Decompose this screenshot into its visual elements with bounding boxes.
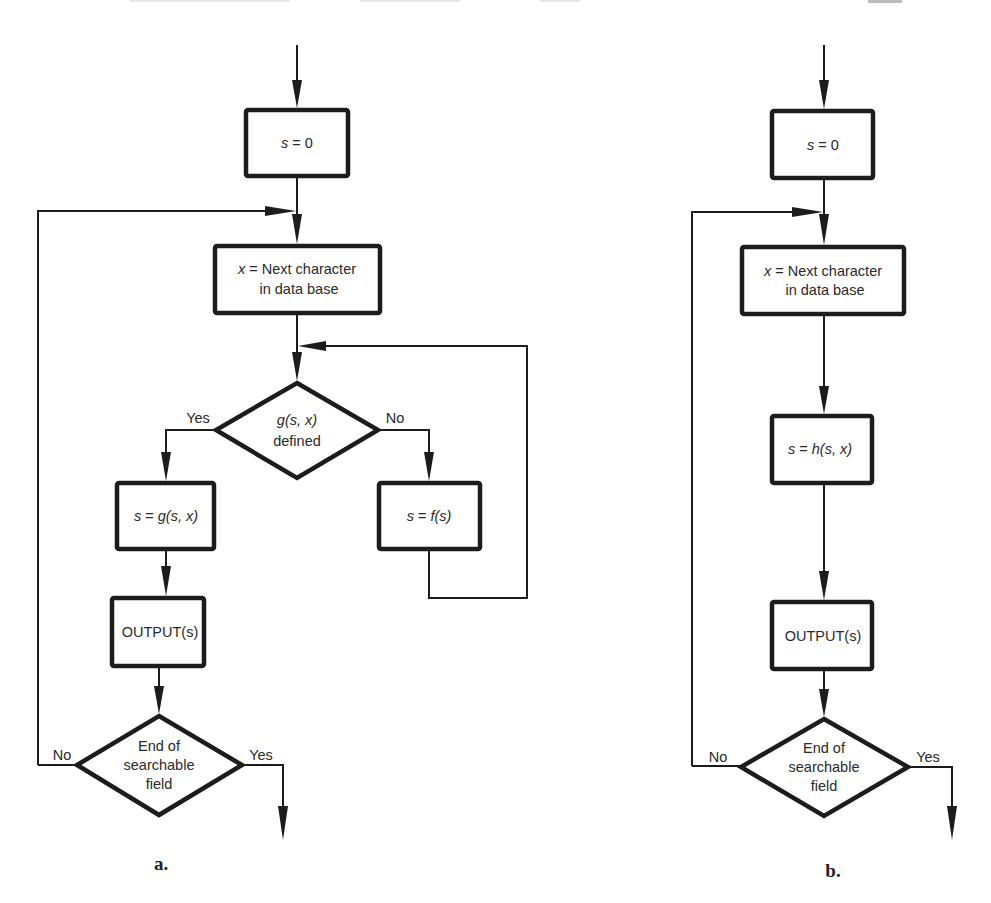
- no-label: No: [386, 410, 405, 426]
- caption-b: b.: [825, 860, 840, 881]
- no-label: No: [709, 749, 728, 765]
- goto-transition-box: s = g(s, x): [117, 483, 214, 549]
- svg-text:s = f(s): s = f(s): [407, 508, 452, 524]
- svg-text:s = 0: s = 0: [807, 137, 839, 153]
- svg-text:End of: End of: [138, 738, 181, 754]
- svg-text:s = g(s, x): s = g(s, x): [134, 508, 198, 524]
- svg-text:field: field: [146, 776, 173, 792]
- goto-defined-decision: g(s, x) defined Yes No: [186, 383, 404, 478]
- end-of-field-decision: End of searchable field No Yes: [709, 719, 940, 816]
- svg-text:x = Next character: x = Next character: [237, 261, 356, 277]
- end-of-field-decision: End of searchable field No Yes: [53, 716, 273, 815]
- svg-text:g(s, x): g(s, x): [277, 412, 317, 428]
- page-header-fragment: [130, 0, 902, 3]
- svg-text:OUTPUT(s): OUTPUT(s): [785, 628, 862, 644]
- yes-label: Yes: [916, 749, 940, 765]
- no-label: No: [53, 747, 72, 763]
- yes-label: Yes: [186, 410, 210, 426]
- svg-text:s = 0: s = 0: [281, 135, 313, 151]
- next-character-box: x = Next character in data base: [742, 247, 904, 314]
- caption-a: a.: [154, 853, 168, 874]
- svg-text:x = Next character: x = Next character: [763, 263, 882, 279]
- start-box: s = 0: [246, 110, 348, 176]
- next-character-box: x = Next character in data base: [215, 246, 380, 313]
- svg-text:in data base: in data base: [259, 281, 338, 297]
- entry-arrow: [292, 45, 302, 108]
- output-box: OUTPUT(s): [772, 602, 872, 669]
- output-box: OUTPUT(s): [112, 598, 204, 666]
- flowcharts-canvas: s = 0 x = Next character in data base g(…: [0, 0, 991, 903]
- entry-arrow: [819, 45, 829, 109]
- svg-text:field: field: [811, 778, 838, 794]
- svg-text:defined: defined: [273, 433, 321, 449]
- svg-text:End of: End of: [803, 740, 846, 756]
- yes-label: Yes: [249, 747, 273, 763]
- failure-feedback-arrow: [298, 341, 527, 598]
- svg-text:in data base: in data base: [785, 282, 864, 298]
- svg-text:searchable: searchable: [124, 757, 195, 773]
- svg-text:OUTPUT(s): OUTPUT(s): [122, 624, 199, 640]
- start-box: s = 0: [772, 111, 873, 178]
- flowchart-a: s = 0 x = Next character in data base g(…: [38, 45, 527, 874]
- failure-function-box: s = f(s): [379, 483, 480, 549]
- transition-box: s = h(s, x): [772, 416, 872, 483]
- svg-text:s = h(s, x): s = h(s, x): [788, 441, 852, 457]
- flowchart-b: s = 0 x = Next character in data base s …: [692, 45, 957, 881]
- svg-text:searchable: searchable: [789, 759, 860, 775]
